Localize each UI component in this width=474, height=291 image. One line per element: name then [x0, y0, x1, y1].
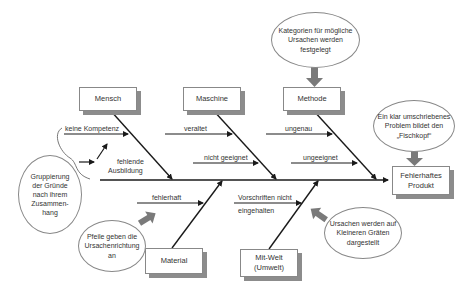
category-label-mitwelt-2: (Umwelt) — [254, 263, 284, 273]
bone-mitwelt — [269, 181, 318, 249]
note-fischkopf: Ein klar umschriebenes Problem bildet de… — [373, 100, 455, 152]
note-pfeile-line-1: Pfeile geben die — [87, 232, 137, 241]
cause-vorschriften-1: Vorschriften nicht — [238, 194, 292, 201]
category-box-mitwelt: Mit-Welt (Umwelt) — [240, 249, 298, 277]
effect-label-2: Produkt — [408, 181, 434, 191]
category-label-maschine: Maschine — [196, 94, 228, 104]
note-fischkopf-line-2: Problem bildet den — [385, 121, 443, 130]
effect-label-1: Fehlerhaftes — [400, 171, 442, 181]
note-pfeile-line-3: an — [108, 251, 116, 260]
category-box-mensch: Mensch — [79, 87, 137, 111]
block-arrow-kategorien — [306, 66, 323, 87]
note-kategorien-line-1: Kategorien für mögliche — [279, 26, 353, 35]
cause-fehlerhaft: fehlerhaft — [152, 194, 181, 201]
cause-veraltet: veraltet — [184, 125, 207, 132]
cause-keine-kompetenz: keine Kompetenz — [65, 125, 119, 132]
cause-vorschriften-2: eingehalten — [238, 207, 274, 214]
note-gruppierung-line-4: Zusammen- — [31, 199, 68, 208]
note-pfeile-line-2: Ursachenrichtung — [85, 241, 140, 250]
cause-fehlende-2: Ausbildung — [107, 166, 144, 175]
bone-material — [172, 181, 222, 248]
category-box-methode: Methode — [283, 87, 341, 111]
note-kategorien-line-3: festgelegt — [300, 45, 330, 54]
effect-box: Fehlerhaftes Produkt — [392, 166, 450, 195]
note-fischkopf-line-1: Ein klar umschriebenes — [378, 112, 451, 121]
bone-methode — [313, 110, 376, 179]
note-gruppierung: Gruppierung der Gründe nach ihrem Zusamm… — [18, 155, 82, 234]
note-gruppierung-line-5: hang — [42, 208, 58, 217]
category-label-mitwelt-1: Mit-Welt — [255, 253, 282, 263]
bone-maschine — [213, 110, 276, 179]
block-arrow-fischkopf — [406, 150, 423, 166]
note-kategorien-line-2: Ursachen werden — [288, 35, 343, 44]
note-graeten: Ursachen werden auf Kleineren Gräten dar… — [324, 207, 402, 259]
note-gruppierung-line-3: nach ihrem — [33, 190, 68, 199]
note-kategorien: Kategorien für mögliche Ursachen werden … — [271, 12, 360, 68]
note-fischkopf-line-3: „Fischkopf“ — [397, 131, 432, 140]
category-label-methode: Methode — [297, 94, 326, 104]
category-label-material: Material — [161, 256, 188, 266]
category-box-maschine: Maschine — [183, 87, 241, 111]
category-label-mensch: Mensch — [95, 94, 121, 104]
category-box-material: Material — [145, 248, 203, 274]
cause-nicht-geeignet: nicht geeignet — [204, 154, 248, 161]
note-gruppierung-line-2: der Gründe — [32, 181, 67, 190]
note-graeten-line-2: Kleineren Gräten — [337, 228, 390, 237]
cause-fehlende-1: fehlende — [117, 157, 144, 166]
note-pfeile: Pfeile geben die Ursachenrichtung an — [78, 220, 146, 272]
note-graeten-line-1: Ursachen werden auf — [330, 219, 397, 228]
cause-ungenau: ungenau — [285, 125, 312, 132]
grouping-arrow-2 — [97, 144, 107, 159]
block-arrow-pfeile — [136, 207, 160, 229]
cause-fehlende-ausbildung: fehlende Ausbildung — [117, 157, 144, 176]
note-gruppierung-line-1: Gruppierung — [31, 172, 70, 181]
cause-ungeeignet: ungeeignet — [303, 154, 338, 161]
note-graeten-line-3: dargestellt — [347, 238, 379, 247]
